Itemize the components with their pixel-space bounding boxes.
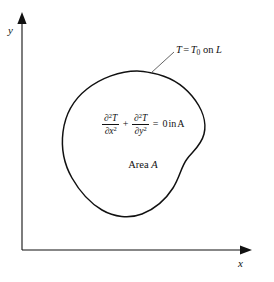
term1-num-variable: T [112,113,117,123]
boundary-label-T0-subscript: 0 [197,48,201,57]
term2-den-superscript: 2 [143,125,146,132]
boundary-label-on: on [203,44,214,55]
x-axis-label: x [238,258,243,269]
boundary-condition-label: T=T0 on L [176,45,222,56]
area-label-symbol: A [151,159,157,170]
y-axis-label: y [8,25,13,36]
term1-numerator: ∂2T [102,112,119,125]
equation-plus-operator: + [120,119,132,129]
equation-term-1: ∂2T ∂x2 [102,112,119,137]
area-label: Area A [88,160,198,171]
equation-equals-operator: = [150,119,162,129]
boundary-label-equals: = [182,44,191,55]
figure-text-layer: y x T=T0 on L ∂2T ∂x2 + ∂2T ∂y2 = 0 in A… [0,0,274,282]
term2-num-variable: T [142,113,147,123]
term1-den-superscript: 2 [114,125,117,132]
laplace-equation: ∂2T ∂x2 + ∂2T ∂y2 = 0 in A [88,112,198,137]
figure-canvas: y x T=T0 on L ∂2T ∂x2 + ∂2T ∂y2 = 0 in A… [0,0,274,282]
equation-qualifier-region: A [176,119,184,129]
boundary-label-T: T [176,44,182,55]
equation-qualifier-in: in [167,119,176,129]
term2-numerator: ∂2T [132,112,149,125]
boundary-label-L: L [216,44,222,55]
equation-term-2: ∂2T ∂y2 [132,112,149,137]
area-label-prefix: Area [128,159,148,170]
term2-denominator: ∂y2 [133,125,149,137]
term1-denominator: ∂x2 [103,125,119,137]
